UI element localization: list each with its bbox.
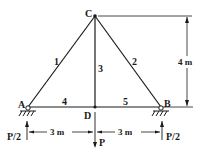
reaction-b-label: P/2 — [166, 131, 180, 142]
node-a-label: A — [18, 99, 26, 110]
reaction-a-arrow — [25, 121, 29, 140]
load-p-arrow — [93, 112, 97, 148]
height-label: 4 m — [178, 57, 193, 67]
node-d-label: D — [84, 110, 91, 121]
right-span-label: 3 m — [118, 127, 133, 137]
node-b-label: B — [164, 98, 171, 109]
member-1-label: 1 — [54, 56, 59, 67]
member-4-label: 4 — [62, 96, 67, 107]
pin-a — [26, 106, 30, 110]
support-a — [19, 111, 36, 116]
span-dimension — [29, 131, 160, 134]
pin-b — [159, 106, 163, 110]
left-span-label: 3 m — [50, 127, 65, 137]
member-2 — [95, 16, 161, 107]
joint-d — [93, 105, 96, 108]
truss-diagram: 4 m 3 m 3 m P P/2 P/2 C A B D 1 2 3 4 5 — [0, 0, 204, 155]
node-c-label: C — [85, 8, 92, 19]
member-2-label: 2 — [132, 56, 137, 67]
member-3-label: 3 — [98, 63, 103, 74]
reaction-a-label: P/2 — [7, 131, 21, 142]
member-1 — [28, 16, 95, 107]
joint-c — [93, 14, 97, 18]
load-p-label: P — [99, 137, 105, 148]
reaction-b-arrow — [160, 121, 164, 140]
support-b — [152, 111, 169, 116]
member-5-label: 5 — [123, 96, 128, 107]
